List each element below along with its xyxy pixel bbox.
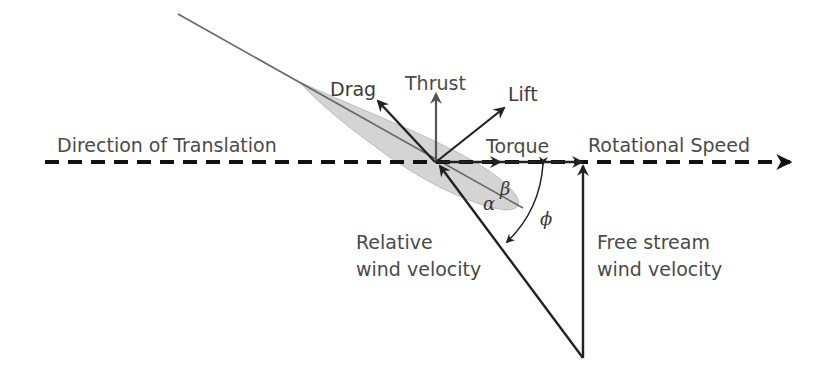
beta-angle-label: β (499, 178, 510, 199)
free-stream-label-line2: wind velocity (597, 258, 722, 280)
direction-of-translation-label: Direction of Translation (57, 134, 277, 156)
relative-wind-label-line1: Relative (356, 231, 433, 253)
drag-label: Drag (330, 78, 376, 100)
free-stream-label-line1: Free stream (597, 231, 710, 253)
alpha-angle-label: α (483, 193, 495, 214)
rotational-speed-label: Rotational Speed (588, 134, 750, 156)
thrust-label: Thrust (404, 72, 466, 94)
phi-angle-label: ϕ (540, 208, 552, 229)
blade-element-diagram: Direction of Translation Rotational Spee… (0, 0, 839, 385)
relative-wind-label-line2: wind velocity (356, 258, 481, 280)
lift-label: Lift (508, 83, 538, 105)
torque-label: Torque (485, 135, 549, 157)
chord-line (178, 14, 523, 208)
